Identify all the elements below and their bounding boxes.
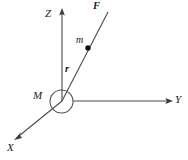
point-mass-label: m [76,35,83,45]
x-axis-line [19,101,62,136]
diagram-canvas [0,0,188,160]
x-axis-arrow-icon [14,132,22,140]
physics-diagram: Z Y X F r m M [0,0,188,160]
central-mass-label: M [33,90,42,101]
y-axis-label: Y [175,94,181,105]
force-vector-label: F [93,1,100,12]
point-mass-dot [85,45,90,50]
position-vector-label: r [65,64,69,75]
x-axis-label: X [7,142,14,153]
z-axis-label: Z [45,8,51,19]
force-ray-line [62,12,108,101]
